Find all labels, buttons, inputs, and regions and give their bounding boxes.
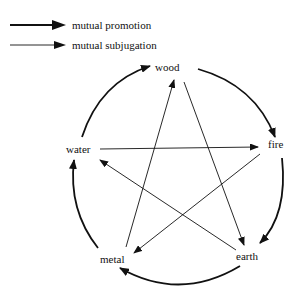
subjugation-lines xyxy=(100,80,260,253)
node-wood: wood xyxy=(155,62,179,73)
node-water: water xyxy=(66,144,90,155)
node-metal: metal xyxy=(100,254,124,265)
node-earth: earth xyxy=(236,251,258,262)
node-fire: fire xyxy=(268,139,283,150)
